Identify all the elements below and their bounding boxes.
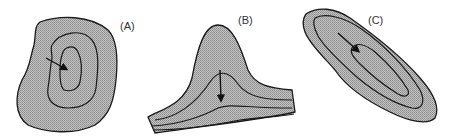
panel-b-label: (B) xyxy=(238,14,253,26)
panel-a-label: (A) xyxy=(120,20,135,32)
panel-b-arrow-icon xyxy=(220,70,221,100)
panel-a: (A) xyxy=(17,17,135,131)
panel-b: (B) xyxy=(148,14,295,133)
panel-c-label: (C) xyxy=(368,14,383,26)
contour-diagram: (A) (B) (C) xyxy=(0,0,452,139)
panel-c: (C) xyxy=(303,9,437,122)
